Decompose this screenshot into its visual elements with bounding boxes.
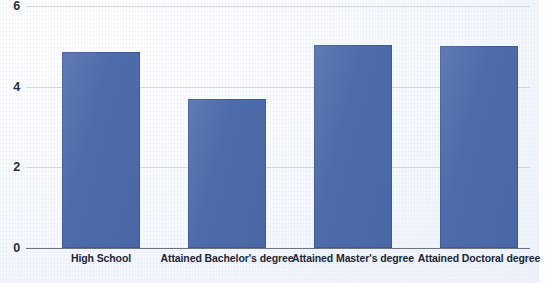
bar — [188, 99, 266, 248]
bar-sheen — [440, 46, 518, 248]
y-axis-tick-6: 6 — [0, 0, 20, 13]
y-axis-tick-2: 2 — [0, 160, 20, 174]
bar — [62, 52, 140, 248]
x-axis-label: Attained Master's degree — [281, 252, 425, 265]
x-axis-label: Attained Bachelor's degree — [155, 252, 299, 265]
bar-sheen — [62, 52, 140, 248]
y-axis-tick-0: 0 — [0, 241, 20, 255]
bar — [314, 45, 392, 248]
bar-series — [26, 6, 530, 248]
bar — [440, 46, 518, 248]
y-axis-tick-4: 4 — [0, 80, 20, 94]
bar-sheen — [188, 99, 266, 248]
x-axis-label: High School — [29, 252, 173, 265]
x-axis-label: Attained Doctoral degree — [407, 252, 545, 265]
x-axis-category-labels: High SchoolAttained Bachelor's degreeAtt… — [26, 250, 530, 283]
bar-sheen — [314, 45, 392, 248]
